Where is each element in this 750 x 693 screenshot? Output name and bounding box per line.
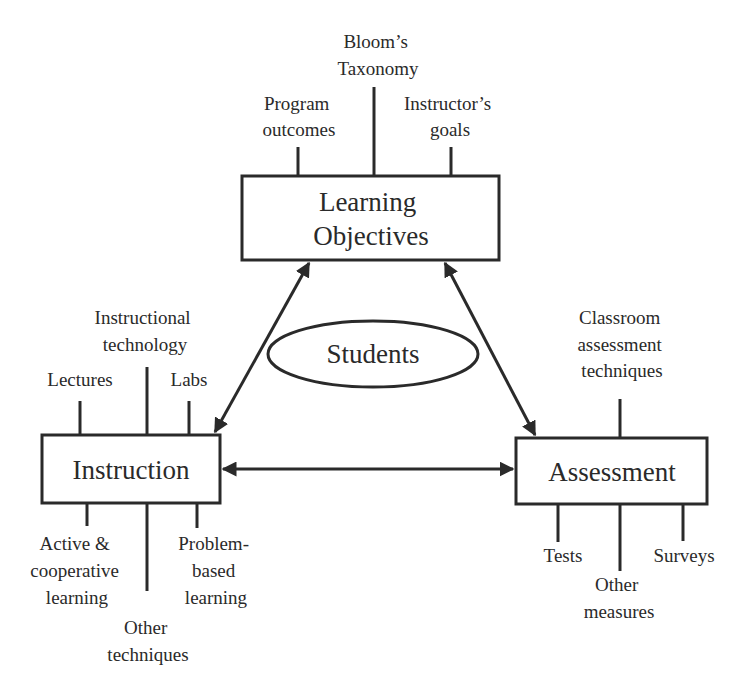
- label-other-measures: Other measures: [584, 574, 655, 622]
- label-line: Instructional: [95, 307, 191, 328]
- instruction-label: Instruction: [73, 455, 190, 485]
- label-line: Active &: [40, 533, 110, 554]
- course-design-diagram: Program outcomes Bloom’s Taxonomy Instru…: [0, 0, 750, 693]
- label-line: Program: [264, 93, 330, 114]
- students-label: Students: [326, 339, 419, 369]
- label-program-outcomes: Program outcomes: [263, 93, 336, 140]
- label-line: goals: [430, 119, 470, 140]
- label-line: cooperative: [30, 560, 119, 581]
- label-labs: Labs: [171, 369, 208, 390]
- label-line: Objectives: [313, 221, 428, 251]
- label-lectures: Lectures: [47, 369, 112, 390]
- assessment-label: Assessment: [548, 457, 676, 487]
- label-line: Bloom’s: [343, 31, 407, 52]
- learning-objectives-group: Program outcomes Bloom’s Taxonomy Instru…: [242, 31, 499, 260]
- label-other-techniques: Other techniques: [107, 617, 188, 665]
- label-instructional-technology: Instructional technology: [95, 307, 196, 355]
- label-line: outcomes: [263, 119, 336, 140]
- label-line: Surveys: [653, 545, 714, 566]
- label-classroom-assessment: Classroom assessment techniques: [577, 307, 666, 381]
- label-problem-based: Problem- based learning: [178, 533, 253, 608]
- label-surveys: Surveys: [653, 545, 714, 566]
- label-line: Other: [595, 574, 639, 595]
- label-line: techniques: [581, 360, 662, 381]
- label-line: Instructor’s: [404, 93, 491, 114]
- label-line: Lectures: [47, 369, 112, 390]
- label-line: Taxonomy: [338, 58, 419, 79]
- students-group: Students: [268, 321, 478, 387]
- label-line: learning: [185, 587, 248, 608]
- label-line: assessment: [577, 334, 662, 355]
- label-line: based: [192, 560, 236, 581]
- label-line: Labs: [171, 369, 208, 390]
- label-line: technology: [103, 334, 188, 355]
- label-blooms-taxonomy: Bloom’s Taxonomy: [338, 31, 419, 79]
- label-line: techniques: [107, 644, 188, 665]
- label-line: Tests: [544, 545, 583, 566]
- label-tests: Tests: [544, 545, 583, 566]
- label-instructors-goals: Instructor’s goals: [404, 93, 496, 140]
- label-line: Classroom: [579, 307, 661, 328]
- label-active-cooperative: Active & cooperative learning: [30, 533, 123, 608]
- label-line: measures: [584, 601, 655, 622]
- label-line: Problem-: [178, 533, 249, 554]
- label-line: Other: [124, 617, 168, 638]
- instruction-group: Lectures Instructional technology Labs I…: [30, 307, 253, 665]
- label-line: Learning: [319, 187, 416, 217]
- assessment-group: Classroom assessment techniques Assessme…: [516, 307, 715, 622]
- label-line: learning: [46, 587, 109, 608]
